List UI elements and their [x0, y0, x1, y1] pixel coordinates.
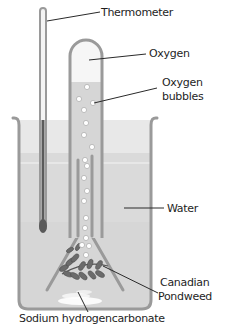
label-sodium-hydrogencarbonate: Sodium hydrogencarbonate [19, 312, 165, 325]
label-thermometer: Thermometer [101, 6, 173, 19]
label-pondweed-line2: Pondweed [158, 290, 212, 303]
label-oxygen-bubbles-line2: bubbles [162, 90, 203, 103]
label-water: Water [167, 202, 198, 215]
label-oxygen: Oxygen [149, 47, 190, 60]
test-tube [70, 40, 102, 238]
thermometer [39, 8, 47, 233]
label-oxygen-bubbles-line1: Oxygen [162, 76, 203, 89]
label-pondweed-line1: Canadian [160, 276, 210, 289]
